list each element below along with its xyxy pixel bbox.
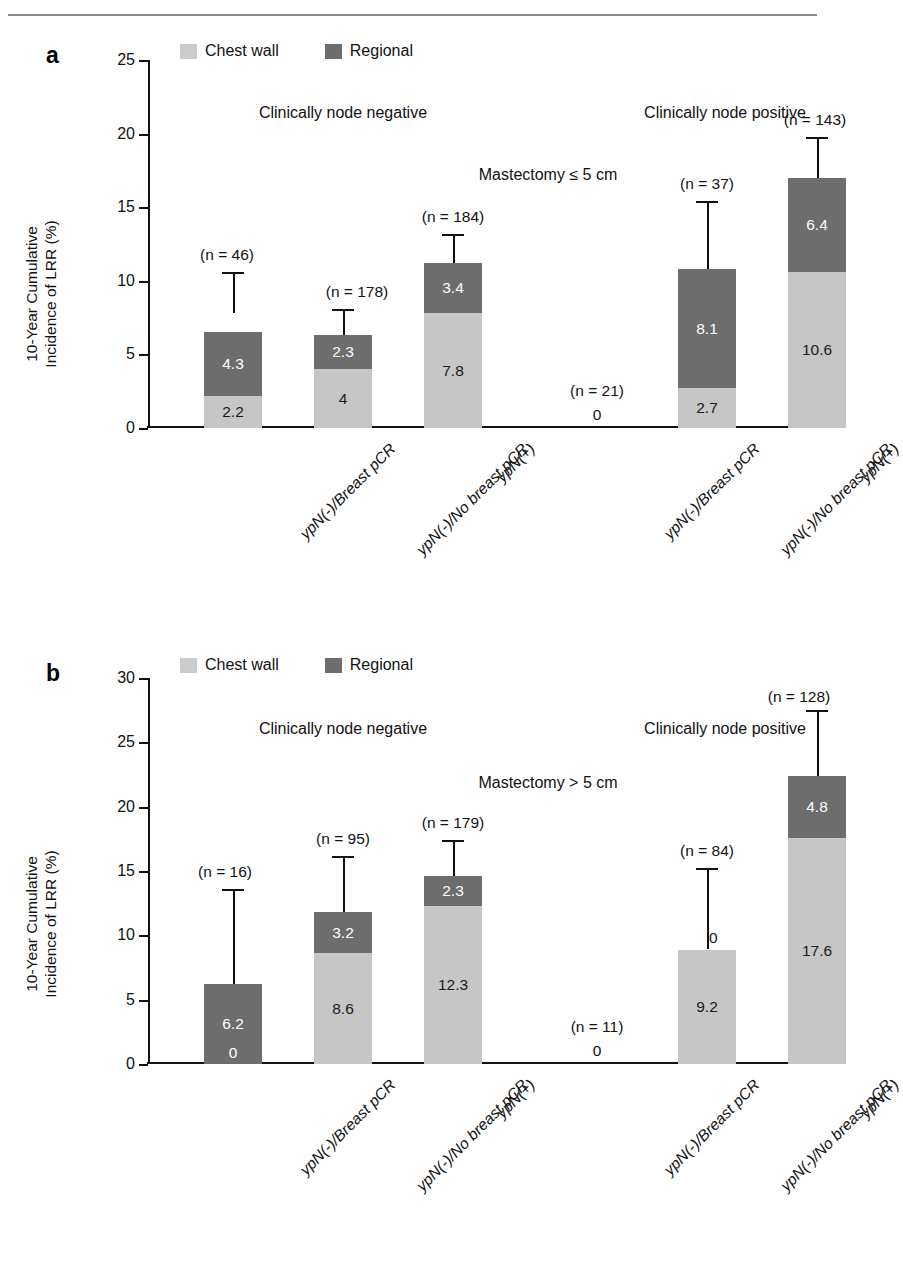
y-axis-tick-label: 15	[117, 198, 135, 216]
y-axis-tick	[139, 207, 148, 209]
error-bar-cap-2	[332, 309, 354, 311]
regional-swatch-icon	[325, 44, 342, 59]
group-caption-node-negative: Clinically node negative	[259, 720, 427, 738]
y-axis-tick-label: 20	[117, 798, 135, 816]
y-axis-tick-label: 5	[126, 345, 135, 363]
bar-2: 42.3	[314, 335, 372, 428]
cropped-running-head	[0, 2, 827, 14]
bar-value-chest-wall: 0	[204, 1044, 262, 1062]
y-axis-tick	[139, 134, 148, 136]
bar-value-regional: 2.3	[314, 343, 372, 361]
legend-label-chest-wall: Chest wall	[205, 42, 279, 60]
sample-size-label-2: (n = 178)	[326, 283, 388, 301]
chest-wall-swatch-icon	[180, 44, 197, 59]
y-axis-tick-label: 5	[126, 991, 135, 1009]
panel-b-plot-area: 051015202530Chest wallRegionalClinically…	[148, 678, 808, 1064]
bar-value-regional: 4.8	[788, 798, 846, 816]
bar-3: 7.83.4	[424, 263, 482, 428]
legend-label-regional: Regional	[350, 42, 413, 60]
bar-segment-regional: 6.4	[788, 178, 846, 272]
legend-label-chest-wall: Chest wall	[205, 656, 279, 674]
error-bar-5	[707, 201, 709, 269]
bar-value-regional: 0	[709, 929, 718, 947]
panel-a-plot-area: 0510152025Chest wallRegionalClinically n…	[148, 60, 808, 428]
bar-6: 10.66.4	[788, 178, 846, 428]
y-axis-label-line2: Incidence of LRR (%)	[42, 850, 59, 997]
bar-value-chest-wall: 10.6	[788, 341, 846, 359]
legend-label-regional: Regional	[350, 656, 413, 674]
error-bar-cap-1	[222, 889, 244, 891]
y-axis-label-line1: 10-Year Cumulative	[23, 226, 40, 362]
y-axis-tick-label: 0	[126, 1055, 135, 1073]
legend: Chest wallRegional	[180, 656, 413, 674]
error-bar-cap-6	[806, 137, 828, 139]
bar-value-chest-wall: 9.2	[678, 998, 736, 1016]
error-bar-2	[343, 856, 345, 913]
error-bar-1	[233, 272, 235, 313]
error-bar-5	[707, 868, 709, 949]
bar-5: 2.78.1	[678, 269, 736, 428]
bar-segment-regional: 3.4	[424, 263, 482, 313]
bar-value-chest-wall: 2.7	[678, 399, 736, 417]
sample-size-label-1: (n = 46)	[200, 246, 254, 264]
x-axis-label-1: ypN(-)/Breast pCR	[296, 1076, 399, 1179]
error-bar-cap-5	[696, 868, 718, 870]
y-axis-tick	[139, 871, 148, 873]
bar-segment-chest-wall: 12.3	[424, 906, 482, 1064]
y-axis-tick	[139, 807, 148, 809]
chest-wall-swatch-icon	[180, 658, 197, 673]
bar-value-chest-wall: 8.6	[314, 1000, 372, 1018]
bar-value-regional: 3.2	[314, 924, 372, 942]
panel-b-letter: b	[46, 660, 60, 687]
bar-value-regional: 3.4	[424, 279, 482, 297]
sample-size-label-3: (n = 179)	[422, 814, 484, 832]
panel-b-y-axis-label: 10-Year Cumulative Incidence of LRR (%)	[22, 784, 60, 1064]
bar-value-regional: 4.3	[204, 355, 262, 373]
bar-3: 12.32.3	[424, 876, 482, 1064]
sample-size-label-4: (n = 11)	[571, 1018, 624, 1036]
x-axis-label-4: ypN(-)/Breast pCR	[660, 440, 763, 543]
sample-size-label-6: (n = 143)	[784, 111, 846, 129]
bar-value-regional: 6.4	[788, 216, 846, 234]
y-axis-tick	[139, 60, 148, 62]
bar-segment-chest-wall: 7.8	[424, 313, 482, 428]
sample-size-label-4: (n = 21)	[570, 382, 624, 400]
y-axis-tick-label: 15	[117, 862, 135, 880]
bar-value-chest-wall: 2.2	[204, 403, 262, 421]
bar-segment-regional: 2.3	[314, 335, 372, 369]
bar-segment-regional: 2.3	[424, 876, 482, 906]
group-caption-node-negative: Clinically node negative	[259, 104, 427, 122]
error-bar-3	[453, 234, 455, 263]
y-axis-label-line1: 10-Year Cumulative	[23, 856, 40, 992]
group-caption-node-positive: Clinically node positive	[644, 104, 806, 122]
sample-size-label-5: (n = 84)	[680, 842, 734, 860]
legend-item-chest-wall: Chest wall	[180, 42, 279, 60]
bar-1: 2.24.3	[204, 313, 262, 428]
panel-a-letter: a	[46, 42, 59, 69]
bar-value-regional: 6.2	[204, 1015, 262, 1033]
panel-annotation: Mastectomy ≤ 5 cm	[479, 166, 618, 184]
sample-size-label-5: (n = 37)	[680, 175, 734, 193]
legend: Chest wallRegional	[180, 42, 413, 60]
bar-zero-label-4: 0	[593, 1042, 602, 1060]
x-axis-label-4: ypN(-)/Breast pCR	[660, 1076, 763, 1179]
error-bar-3	[453, 840, 455, 876]
bar-value-chest-wall: 7.8	[424, 362, 482, 380]
header-divider	[8, 14, 817, 16]
y-axis-tick	[139, 1064, 148, 1066]
group-caption-node-positive: Clinically node positive	[644, 720, 806, 738]
bar-2: 8.63.2	[314, 912, 372, 1064]
bar-6: 17.64.8	[788, 776, 846, 1064]
x-axis-label-1: ypN(-)/Breast pCR	[296, 440, 399, 543]
y-axis-tick	[139, 281, 148, 283]
error-bar-cap-5	[696, 201, 718, 203]
bar-value-regional: 2.3	[424, 882, 482, 900]
y-axis-tick-label: 10	[117, 272, 135, 290]
bar-segment-regional: 4.3	[204, 332, 262, 395]
error-bar-6	[817, 710, 819, 776]
bar-segment-chest-wall: 9.2	[678, 950, 736, 1065]
sample-size-label-3: (n = 184)	[422, 208, 484, 226]
bar-5: 9.2	[678, 950, 736, 1065]
y-axis-tick-label: 30	[117, 669, 135, 687]
